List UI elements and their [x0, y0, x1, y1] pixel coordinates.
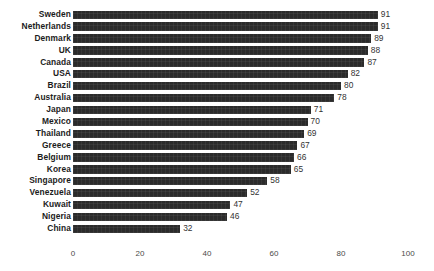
category-label: Mexico	[0, 116, 71, 128]
bar	[73, 11, 378, 19]
bar-track: 67	[73, 140, 408, 152]
chart-row: Nigeria46	[0, 211, 434, 223]
bar-track: 78	[73, 92, 408, 104]
chart-row: Singapore58	[0, 175, 434, 187]
chart-rows: Sweden91Netherlands91Denmark89UK88Canada…	[0, 9, 434, 235]
chart-row: Venezuela52	[0, 187, 434, 199]
category-label: Denmark	[0, 33, 71, 45]
chart-row: Netherlands91	[0, 21, 434, 33]
chart-row: Denmark89	[0, 33, 434, 45]
chart-row: Thailand69	[0, 128, 434, 140]
category-label: Canada	[0, 57, 71, 69]
chart-row: Japan71	[0, 104, 434, 116]
bar-value-label: 32	[183, 223, 192, 235]
category-label: Thailand	[0, 128, 71, 140]
bar	[73, 165, 291, 173]
bar-value-label: 82	[351, 68, 360, 80]
bar-value-label: 70	[311, 116, 320, 128]
bar	[73, 153, 294, 161]
bar	[73, 46, 368, 54]
chart-row: Brazil80	[0, 80, 434, 92]
chart-row: Korea65	[0, 164, 434, 176]
bar-value-label: 80	[344, 80, 353, 92]
bar-value-label: 87	[367, 57, 376, 69]
x-axis-tick-label: 80	[337, 249, 346, 259]
x-axis-tick-label: 40	[203, 249, 212, 259]
chart-row: Australia78	[0, 92, 434, 104]
bar-value-label: 69	[307, 128, 316, 140]
bar	[73, 70, 348, 78]
bar	[73, 177, 267, 185]
bar-value-label: 71	[314, 104, 323, 116]
bar	[73, 58, 364, 66]
category-label: Singapore	[0, 175, 71, 187]
category-label: USA	[0, 68, 71, 80]
bar-track: 47	[73, 199, 408, 211]
x-axis-tick-label: 20	[136, 249, 145, 259]
x-axis: 020406080100	[73, 243, 408, 267]
category-label: Belgium	[0, 152, 71, 164]
bar-track: 58	[73, 175, 408, 187]
chart-row: UK88	[0, 45, 434, 57]
x-axis-tick-label: 0	[71, 249, 75, 259]
bar-track: 88	[73, 45, 408, 57]
cropped-row-artifact	[0, 0, 434, 4]
bar-track: 91	[73, 9, 408, 21]
bar	[73, 141, 297, 149]
chart-row: Sweden91	[0, 9, 434, 21]
chart-row: Mexico70	[0, 116, 434, 128]
bar-value-label: 46	[230, 211, 239, 223]
bar-value-label: 58	[270, 175, 279, 187]
x-axis-tick-label: 100	[401, 249, 414, 259]
bar-track: 70	[73, 116, 408, 128]
bar-track: 69	[73, 128, 408, 140]
bar-track: 89	[73, 33, 408, 45]
bar-value-label: 91	[381, 21, 390, 33]
bar-track: 71	[73, 104, 408, 116]
bar	[73, 22, 378, 30]
bar-value-label: 67	[300, 140, 309, 152]
bar	[73, 106, 311, 114]
category-label: Netherlands	[0, 21, 71, 33]
bar-value-label: 89	[374, 33, 383, 45]
category-label: Korea	[0, 164, 71, 176]
bar-track: 32	[73, 223, 408, 235]
chart-row: USA82	[0, 68, 434, 80]
bar-track: 66	[73, 152, 408, 164]
bar-chart: Sweden91Netherlands91Denmark89UK88Canada…	[0, 0, 434, 271]
bar	[73, 118, 308, 126]
category-label: Australia	[0, 92, 71, 104]
bar-track: 52	[73, 187, 408, 199]
bar-track: 80	[73, 80, 408, 92]
chart-row: Canada87	[0, 57, 434, 69]
bar-value-label: 91	[381, 9, 390, 21]
bar-track: 46	[73, 211, 408, 223]
category-label: Sweden	[0, 9, 71, 21]
bar-track: 82	[73, 68, 408, 80]
bar-value-label: 65	[294, 164, 303, 176]
bar	[73, 213, 227, 221]
bar-track: 91	[73, 21, 408, 33]
category-label: Greece	[0, 140, 71, 152]
bar	[73, 201, 230, 209]
bar-value-label: 47	[233, 199, 242, 211]
bar-value-label: 88	[371, 45, 380, 57]
category-label: Venezuela	[0, 187, 71, 199]
bar	[73, 94, 334, 102]
bar-value-label: 52	[250, 187, 259, 199]
bar-track: 87	[73, 57, 408, 69]
category-label: Nigeria	[0, 211, 71, 223]
category-label: China	[0, 223, 71, 235]
bar	[73, 225, 180, 233]
bar-value-label: 66	[297, 152, 306, 164]
chart-row: Kuwait47	[0, 199, 434, 211]
bar	[73, 82, 341, 90]
category-label: UK	[0, 45, 71, 57]
bar-value-label: 78	[337, 92, 346, 104]
category-label: Kuwait	[0, 199, 71, 211]
chart-row: Greece67	[0, 140, 434, 152]
bar	[73, 130, 304, 138]
chart-row: Belgium66	[0, 152, 434, 164]
x-axis-tick-label: 60	[270, 249, 279, 259]
bar-track: 65	[73, 164, 408, 176]
